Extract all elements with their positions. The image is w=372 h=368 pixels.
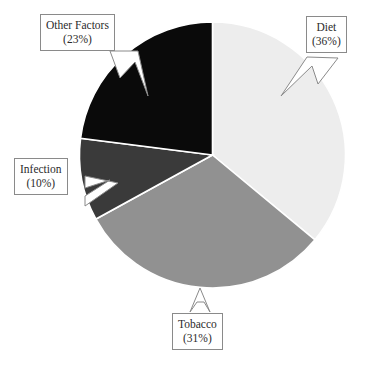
- leader-tobacco: [190, 288, 210, 312]
- callout-tobacco-label: Tobacco: [178, 317, 217, 331]
- callout-tobacco-percent: (31%): [178, 331, 217, 345]
- callout-infection[interactable]: Infection (10%): [14, 158, 68, 195]
- pie-chart-figure: Other Factors (23%) Diet (36%) Infection…: [0, 0, 372, 368]
- callout-other-factors-percent: (23%): [46, 32, 109, 46]
- callout-diet-percent: (36%): [312, 34, 341, 48]
- callout-other-factors[interactable]: Other Factors (23%): [40, 14, 115, 51]
- callout-tobacco[interactable]: Tobacco (31%): [172, 313, 223, 350]
- callout-other-factors-label: Other Factors: [46, 18, 109, 32]
- callout-diet[interactable]: Diet (36%): [306, 16, 347, 53]
- callout-diet-label: Diet: [312, 20, 341, 34]
- callout-infection-label: Infection: [20, 162, 62, 176]
- callout-infection-percent: (10%): [20, 176, 62, 190]
